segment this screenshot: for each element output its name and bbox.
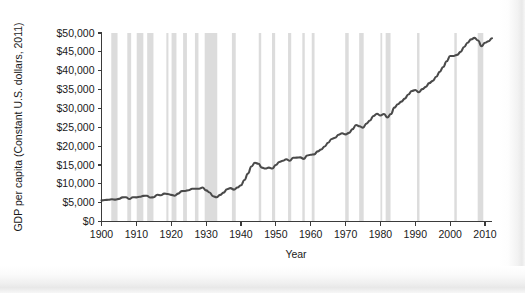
x-tick-label: 1950: [264, 228, 288, 240]
gdp-per-capita-line-chart: $0$5,000$10,000$15,000$20,000$25,000$30,…: [0, 0, 525, 293]
y-tick-label: $40,000: [57, 64, 95, 76]
recession-band: [272, 33, 275, 222]
x-tick-label: 1970: [334, 228, 358, 240]
recession-band: [172, 33, 177, 222]
chart-figure: $0$5,000$10,000$15,000$20,000$25,000$30,…: [0, 0, 525, 293]
x-axis-ticks-group: 1900191019201930194019501960197019801990…: [90, 222, 497, 240]
y-tick-label: $45,000: [57, 45, 95, 57]
recession-band: [302, 33, 304, 222]
recession-band: [259, 33, 261, 222]
x-tick-label: 2010: [473, 228, 497, 240]
y-tick-label: $5,000: [62, 196, 94, 208]
y-tick-label: $30,000: [57, 102, 95, 114]
plot-background: [101, 33, 492, 221]
y-tick-label: $0: [83, 215, 95, 227]
y-axis-title: GDP per capita (Constant U.S. dollars, 2…: [12, 22, 24, 231]
x-tick-label: 1920: [160, 228, 184, 240]
recession-band: [417, 33, 419, 222]
x-tick-label: 1900: [90, 228, 114, 240]
y-tick-label: $35,000: [57, 83, 95, 95]
recession-band: [380, 33, 382, 222]
y-axis-ticks-group: $0$5,000$10,000$15,000$20,000$25,000$30,…: [57, 27, 102, 228]
recession-band: [232, 33, 236, 222]
x-tick-label: 2000: [438, 228, 462, 240]
recession-band: [288, 33, 291, 222]
recession-band: [345, 33, 348, 222]
x-tick-label: 1980: [369, 228, 393, 240]
y-tick-label: $20,000: [57, 140, 95, 152]
y-tick-label: $15,000: [57, 159, 95, 171]
x-tick-label: 1990: [404, 228, 428, 240]
recession-band: [111, 33, 117, 222]
y-tick-label: $50,000: [57, 27, 95, 39]
x-tick-label: 1940: [229, 228, 253, 240]
recession-band: [183, 33, 187, 222]
recession-band: [195, 33, 198, 222]
recession-band: [386, 33, 391, 222]
x-tick-label: 1910: [125, 228, 149, 240]
y-tick-label: $25,000: [57, 121, 95, 133]
x-tick-label: 1930: [194, 228, 218, 240]
recession-band: [312, 33, 315, 222]
recession-band: [454, 33, 456, 222]
recession-band: [127, 33, 131, 222]
recession-band: [478, 33, 484, 222]
x-tick-label: 1960: [299, 228, 323, 240]
x-axis-title: Year: [285, 248, 307, 260]
y-tick-label: $10,000: [57, 177, 95, 189]
recession-band: [147, 33, 153, 222]
recession-band: [137, 33, 144, 222]
